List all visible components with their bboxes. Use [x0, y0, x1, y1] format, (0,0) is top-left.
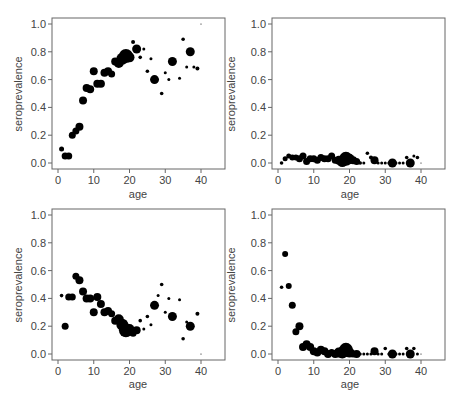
- data-point: [65, 153, 72, 160]
- y-tick-label: 0.4: [251, 101, 266, 113]
- data-point: [394, 353, 397, 356]
- data-point: [178, 77, 181, 80]
- data-point: [97, 300, 105, 308]
- data-point: [150, 75, 159, 84]
- y-axis-label: seroprevalence: [225, 56, 237, 131]
- x-tick-label: 0: [275, 174, 281, 186]
- x-tick-label: 0: [55, 174, 61, 186]
- y-axis: 0.00.20.40.60.81.0: [31, 18, 52, 169]
- y-axis-label: seroprevalence: [225, 247, 237, 322]
- data-point: [181, 337, 185, 341]
- data-point: [97, 80, 105, 88]
- y-tick-label: 0.4: [31, 292, 46, 304]
- panel-top-left: 0.00.20.40.60.81.0 010203040 age seropre…: [12, 18, 225, 200]
- data-point: [416, 156, 420, 160]
- data-point: [90, 67, 98, 75]
- data-point: [167, 78, 170, 81]
- y-axis-label: seroprevalence: [12, 247, 24, 322]
- data-point: [186, 47, 195, 56]
- data-point: [295, 322, 303, 330]
- y-tick-label: 0.2: [31, 129, 46, 141]
- data-point: [186, 322, 195, 331]
- x-tick-label: 0: [275, 365, 281, 377]
- y-axis-label: seroprevalence: [12, 56, 24, 131]
- y-tick-label: 0.6: [31, 74, 46, 86]
- y-tick-label: 0.8: [31, 237, 46, 249]
- y-tick-label: 0.2: [251, 129, 266, 141]
- data-point: [420, 353, 421, 354]
- y-tick-label: 0.8: [251, 237, 266, 249]
- data-point: [131, 40, 135, 44]
- data-point: [398, 162, 401, 165]
- data-point: [282, 251, 288, 257]
- data-point: [366, 353, 369, 356]
- y-tick-label: 0.4: [31, 101, 46, 113]
- data-point: [412, 347, 416, 351]
- x-tick-label: 30: [379, 174, 391, 186]
- data-point: [416, 353, 419, 356]
- data-point: [164, 71, 167, 74]
- data-point: [149, 57, 152, 60]
- data-point: [168, 57, 177, 66]
- x-tick-label: 40: [195, 365, 207, 377]
- data-point: [160, 283, 164, 287]
- data-point: [195, 66, 199, 70]
- panel-bottom-right: 0.00.20.40.60.81.0 010203040 age seropre…: [225, 209, 445, 390]
- data-point: [377, 353, 380, 356]
- data-point: [280, 161, 284, 165]
- y-tick-label: 0.4: [251, 292, 266, 304]
- data-point: [406, 159, 415, 168]
- x-tick-label: 40: [195, 174, 207, 186]
- data-point: [75, 276, 83, 284]
- x-tick-label: 30: [159, 174, 171, 186]
- x-tick-label: 10: [88, 365, 100, 377]
- data-point: [362, 353, 365, 356]
- x-axis: 010203040: [55, 360, 207, 377]
- plot-frame: [272, 209, 445, 360]
- scatter-points: [280, 151, 422, 167]
- scatter-points: [280, 251, 422, 359]
- data-point: [402, 353, 405, 356]
- data-point: [164, 311, 167, 314]
- data-point: [289, 302, 296, 309]
- data-point: [402, 162, 405, 165]
- data-point: [362, 162, 365, 165]
- panel-top-right: 0.00.20.40.60.81.0 010203040 age seropre…: [225, 18, 445, 200]
- data-point: [60, 294, 64, 298]
- data-point: [200, 23, 201, 24]
- data-point: [168, 312, 177, 321]
- data-point: [406, 350, 415, 359]
- data-point: [133, 326, 141, 334]
- data-point: [108, 71, 115, 78]
- y-tick-label: 0.0: [251, 348, 266, 360]
- figure-2x2-scatter-grid: 0.00.20.40.60.81.0 010203040 age seropre…: [0, 0, 458, 407]
- x-axis-label: age: [341, 378, 359, 390]
- data-point: [138, 56, 142, 60]
- data-point: [366, 151, 370, 155]
- panel-bottom-left: 0.00.20.40.60.81.0 010203040 age seropre…: [12, 209, 225, 390]
- y-tick-label: 0.2: [251, 320, 266, 332]
- data-point: [86, 85, 94, 93]
- data-point: [150, 301, 159, 310]
- data-point: [384, 162, 387, 165]
- y-tick-label: 1.0: [251, 209, 266, 221]
- x-tick-label: 40: [415, 174, 427, 186]
- y-tick-label: 0.6: [31, 265, 46, 277]
- plot-frame: [52, 209, 225, 360]
- data-point: [192, 66, 195, 69]
- y-tick-label: 0.2: [31, 320, 46, 332]
- x-tick-label: 20: [343, 174, 355, 186]
- data-point: [62, 323, 69, 330]
- y-tick-label: 0.8: [251, 46, 266, 58]
- x-axis-label: age: [341, 188, 359, 200]
- data-point: [167, 297, 170, 300]
- data-point: [86, 294, 94, 302]
- x-tick-label: 0: [55, 365, 61, 377]
- data-point: [377, 162, 380, 165]
- data-point: [108, 310, 115, 317]
- data-point: [405, 156, 409, 160]
- y-tick-label: 0.0: [251, 157, 266, 169]
- data-point: [358, 161, 362, 165]
- data-point: [79, 96, 87, 104]
- data-point: [138, 319, 142, 323]
